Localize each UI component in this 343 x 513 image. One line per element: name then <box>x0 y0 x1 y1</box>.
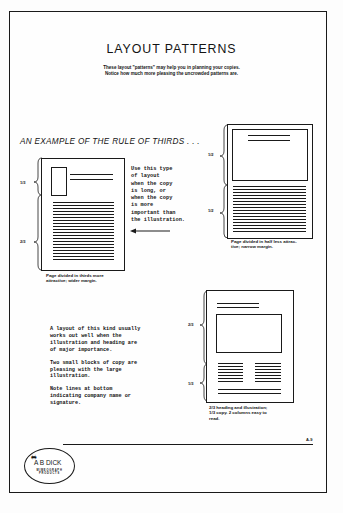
signature-line <box>218 389 281 390</box>
heading-line <box>248 135 290 136</box>
two-column-note: A layout of this kind usually works out … <box>50 326 144 413</box>
thirds-caption: Page divided in thirds more attractive; … <box>46 273 104 284</box>
thirds-side-note: Use this type of layout when the copy is… <box>131 166 185 224</box>
halves-page-diagram <box>227 124 313 239</box>
note-line: Use this type <box>131 166 185 173</box>
subtitle-line: Notice how much more pleasing the uncrow… <box>0 71 343 77</box>
bracket-label: 1/2 <box>208 152 214 157</box>
note-line: when the copy <box>131 195 185 202</box>
logo-name: A B DICK <box>34 459 61 466</box>
page-subtitle: These layout "patterns" may help you in … <box>0 65 343 77</box>
heading-line <box>70 174 113 175</box>
bracket-label: 1/3 <box>20 180 26 185</box>
two-column-caption: 2/3 heading and illustration; 1/3 copy. … <box>209 405 267 421</box>
note-line: when the copy <box>131 181 185 188</box>
illustration-box <box>232 129 308 181</box>
left-arrow-icon <box>130 228 170 234</box>
illustration-box <box>51 167 67 196</box>
bracket-label: 2/3 <box>188 322 194 327</box>
caption-line: attractive; wider margin. <box>46 278 104 283</box>
page-title: LAYOUT PATTERNS <box>9 41 335 56</box>
note-paragraph: Two small blocks of copy are pleasing wi… <box>50 360 144 381</box>
heading-line <box>217 307 259 308</box>
page-number: A-9 <box>306 437 312 442</box>
note-line: the illustration. <box>131 217 185 224</box>
ab-dick-logo: 🖶 A B DICK MIMEOGRAPH PRODUCTS <box>24 448 75 484</box>
note-paragraph: Note lines at bottom indicating company … <box>50 386 144 407</box>
heading-line <box>248 140 290 141</box>
heading-line <box>70 179 113 180</box>
caption-line: tive; narrow margin. <box>231 244 297 249</box>
caption-line: read. <box>209 416 267 421</box>
illustration-box <box>216 314 282 353</box>
logo-subtitle: MIMEOGRAPH PRODUCTS <box>25 469 74 475</box>
two-column-page-diagram <box>206 290 294 403</box>
thirds-page-diagram <box>41 158 125 271</box>
note-line: is more <box>131 202 185 209</box>
bracket-label: 1/2 <box>208 208 214 213</box>
bracket-label: 2/3 <box>20 239 26 244</box>
bracket-label: 1/3 <box>188 381 194 386</box>
note-line: important than <box>131 210 185 217</box>
section-heading: AN EXAMPLE OF THE RULE OF THIRDS . . . <box>20 137 200 146</box>
logo-sub-line: PRODUCTS <box>25 472 74 475</box>
note-line: of layout <box>131 173 185 180</box>
heading-line <box>217 303 259 304</box>
note-paragraph: A layout of this kind usually works out … <box>50 326 144 354</box>
halves-caption: Page divided in half less attrac- tive; … <box>231 239 297 250</box>
footer-rule <box>63 444 313 445</box>
note-line: is long, or <box>131 188 185 195</box>
signature-line <box>218 393 281 394</box>
